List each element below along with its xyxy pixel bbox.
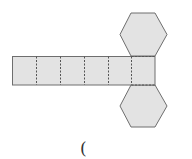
lateral-faces-strip bbox=[13, 57, 156, 86]
answer-parenthesis: ( bbox=[80, 140, 87, 157]
bottom-hexagon-face bbox=[120, 85, 167, 127]
top-hexagon-face bbox=[120, 13, 167, 56]
prism-net-diagram bbox=[0, 0, 192, 159]
